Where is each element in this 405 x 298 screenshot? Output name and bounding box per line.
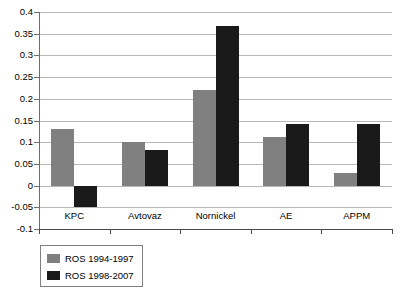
y-axis-tick	[34, 164, 39, 165]
y-axis-tick	[34, 12, 39, 13]
y-axis-tick-label: 0.05	[1, 159, 33, 169]
x-axis-tick-label: Avtovaz	[105, 210, 185, 221]
bar	[263, 137, 286, 185]
bar	[286, 124, 309, 186]
x-axis-tick	[39, 229, 40, 234]
x-axis-tick-label: AE	[246, 210, 326, 221]
bar	[74, 186, 97, 208]
y-axis-tick-label: 0.4	[1, 7, 33, 17]
gridline	[39, 207, 392, 208]
x-axis-tick-label: KPC	[34, 210, 114, 221]
legend-swatch-icon	[47, 271, 60, 280]
y-axis-tick-label: 0	[1, 181, 33, 191]
y-axis-tick	[34, 77, 39, 78]
legend-swatch-icon	[47, 254, 60, 263]
chart-legend: ROS 1994-1997 ROS 1998-2007	[40, 245, 143, 287]
x-axis-tick	[180, 229, 181, 234]
y-axis-tick	[34, 207, 39, 208]
y-axis-tick-label: -0.05	[1, 202, 33, 212]
y-axis-tick-label: 0.15	[1, 116, 33, 126]
bar	[51, 129, 74, 185]
y-axis-tick	[34, 34, 39, 35]
y-axis-tick	[34, 186, 39, 187]
x-axis-tick-label: Nornickel	[176, 210, 256, 221]
bar	[357, 124, 380, 186]
bar	[122, 142, 145, 185]
y-axis-tick-labels: 0.40.350.30.250.20.150.10.050-0.05-0.1	[0, 12, 33, 229]
y-axis-tick-label: 0.3	[1, 50, 33, 60]
bar	[145, 150, 168, 186]
x-axis-tick	[251, 229, 252, 234]
y-axis-line	[39, 12, 40, 230]
y-axis-tick-label: 0.1	[1, 137, 33, 147]
bar-chart: 0.40.350.30.250.20.150.10.050-0.05-0.1 K…	[0, 0, 405, 298]
y-axis-tick-label: 0.35	[1, 29, 33, 39]
plot-area	[39, 12, 392, 229]
legend-item-ros-1994-1997: ROS 1994-1997	[47, 252, 134, 265]
y-axis-tick	[34, 55, 39, 56]
y-axis-tick	[34, 121, 39, 122]
y-axis-tick	[34, 142, 39, 143]
y-axis-tick-label: -0.1	[1, 224, 33, 234]
x-axis-line	[39, 229, 393, 230]
bar	[193, 90, 216, 185]
y-axis-tick-label: 0.25	[1, 72, 33, 82]
gridline	[39, 12, 392, 13]
x-axis-tick-label: APPM	[317, 210, 397, 221]
x-axis-tick	[392, 229, 393, 234]
legend-item-ros-1998-2007: ROS 1998-2007	[47, 269, 134, 282]
bar	[334, 173, 357, 186]
legend-label: ROS 1994-1997	[65, 253, 134, 264]
bar	[216, 26, 239, 186]
x-axis-tick	[110, 229, 111, 234]
y-axis-tick	[34, 99, 39, 100]
legend-label: ROS 1998-2007	[65, 270, 134, 281]
x-axis-tick	[321, 229, 322, 234]
y-axis-tick-label: 0.2	[1, 94, 33, 104]
